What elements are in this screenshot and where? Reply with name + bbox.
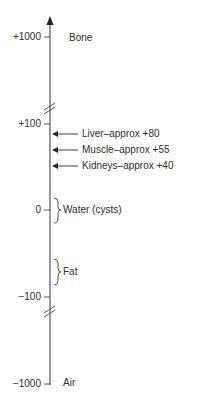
arrow-muscle-icon (52, 147, 78, 153)
label-air: Air (63, 377, 75, 389)
brace-fat-icon (54, 259, 61, 285)
axis-arrow-icon (47, 16, 54, 25)
tick-label-1000: +1000 (1, 31, 41, 43)
brace-water-icon (54, 198, 61, 223)
label-liver: Liver–approx +80 (82, 128, 160, 140)
tick-label-minus-1000: −1000 (1, 378, 41, 390)
label-water: Water (cysts) (63, 204, 122, 216)
label-bone: Bone (69, 32, 92, 44)
label-muscle: Muscle–approx +55 (82, 144, 170, 156)
arrow-liver-icon (52, 131, 78, 137)
tick-label-0: 0 (1, 204, 41, 216)
tick-label-100: +100 (1, 118, 41, 130)
label-kidneys: Kidneys–approx +40 (82, 160, 173, 172)
scale-graphics (0, 0, 197, 402)
arrow-kidneys-icon (52, 163, 78, 169)
label-fat: Fat (63, 266, 77, 278)
tick-label-minus-100: −100 (1, 291, 41, 303)
